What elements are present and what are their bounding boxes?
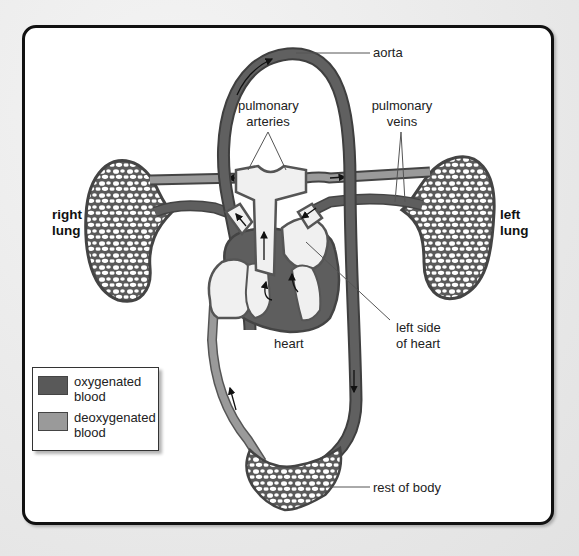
- right-lung-label-line1: right: [52, 207, 82, 223]
- left-lung-label-line1: left: [500, 207, 529, 223]
- oxygenated-swatch: [38, 376, 68, 395]
- left-lung-label-line2: lung: [500, 223, 529, 239]
- left-side-label-line2: of heart: [396, 336, 441, 352]
- pulmonary-arteries-label-line1: pulmonary: [238, 98, 298, 114]
- pulmonary-veins-label-line1: pulmonary: [367, 98, 437, 114]
- legend-item-deoxygenated: deoxygenated blood: [38, 410, 156, 440]
- left-side-label-line1: left side: [396, 320, 441, 336]
- pulmonary-veins-label: pulmonary veins: [367, 98, 437, 130]
- pulmonary-arteries-label-line2: arteries: [238, 114, 298, 130]
- left-lung-label: left lung: [500, 207, 529, 239]
- legend-label-oxygenated: oxygenated blood: [74, 374, 141, 404]
- right-lung-label: right lung: [52, 207, 82, 239]
- legend-oxygenated-line2: blood: [74, 389, 141, 404]
- rest-of-body-label: rest of body: [373, 480, 441, 496]
- legend-label-deoxygenated: deoxygenated blood: [74, 410, 156, 440]
- pulmonary-arteries-label: pulmonary arteries: [238, 98, 298, 130]
- legend-deoxygenated-line2: blood: [74, 425, 156, 440]
- diagram-stage: aorta pulmonary arteries pulmonary veins…: [0, 0, 579, 556]
- legend-item-oxygenated: oxygenated blood: [38, 374, 141, 404]
- deoxygenated-swatch: [38, 412, 68, 431]
- legend: oxygenated blood deoxygenated blood: [32, 367, 159, 451]
- aorta-label: aorta: [373, 45, 403, 61]
- legend-deoxygenated-line1: deoxygenated: [74, 410, 156, 425]
- legend-oxygenated-line1: oxygenated: [74, 374, 141, 389]
- pulmonary-veins: [155, 199, 422, 214]
- rest-of-body-capillaries: [246, 448, 341, 510]
- right-lung-label-line2: lung: [52, 223, 82, 239]
- left-side-of-heart-label: left side of heart: [396, 320, 441, 352]
- pulmonary-veins-label-line2: veins: [367, 114, 437, 130]
- heart-label: heart: [274, 336, 304, 352]
- circulation-diagram: [0, 0, 579, 556]
